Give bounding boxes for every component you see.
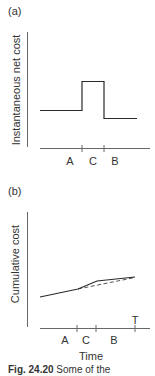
panel-b-tick-label-b: B <box>110 334 117 346</box>
panel-b-xlabel: Time <box>79 350 103 362</box>
panel-b-tick-label-c: C <box>82 334 90 346</box>
figure-caption: Fig. 24.20 Some of the <box>8 364 110 376</box>
caption-text: Some of the <box>54 364 111 375</box>
panel-b-tick-label-a: A <box>61 334 68 346</box>
caption-prefix: Fig. 24.20 <box>8 364 54 375</box>
panel-b-marker-t: T <box>132 314 139 326</box>
panel-b-dashed-line <box>78 278 135 290</box>
